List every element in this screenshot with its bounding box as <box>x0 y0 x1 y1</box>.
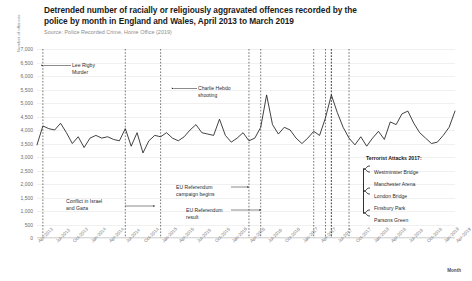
annotation-conflict-gaza: Conflict in Israel and Gaza <box>66 198 102 212</box>
terror-list-item: Finsbury Park <box>374 202 418 214</box>
annotation-lee-rigby: Lee Rigby Murder <box>72 62 95 76</box>
terror-list-item: Westminster Bridge <box>374 166 418 178</box>
terror-list-item: Parsons Green <box>374 214 418 226</box>
annotation-terror-list: Westminster BridgeManchester ArenaLondon… <box>374 166 418 226</box>
data-series-line <box>37 95 455 153</box>
annotation-terror-title: Terrorist Attacks 2017: <box>366 155 422 161</box>
annotation-eu-result: EU Referendum result <box>186 207 223 221</box>
annotation-eu-campaign: EU Referendum campaign begins <box>176 184 215 198</box>
annotation-charlie-hebdo: Charlie Hebdo shooting <box>198 85 231 99</box>
terror-list-brace <box>364 166 370 216</box>
terror-list-item: Manchester Arena <box>374 178 418 190</box>
terror-list-item: London Bridge <box>374 190 418 202</box>
